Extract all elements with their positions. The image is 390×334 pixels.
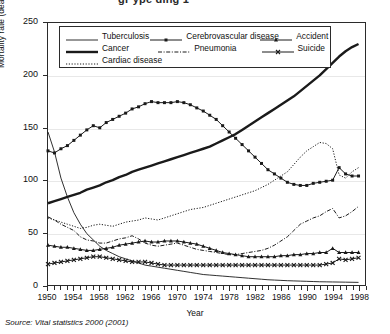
x-tick-label: 1998 [344, 292, 374, 302]
x-tick-minor [171, 286, 172, 290]
chart-legend: Tuberculosis Cerebrovascular disease Acc… [59, 26, 331, 68]
source-note: Source: Vital statistics 2000 (2001) [5, 318, 128, 327]
x-tick-major [255, 286, 256, 291]
series-marker [234, 137, 237, 140]
series-marker [312, 182, 315, 185]
series-marker [286, 181, 289, 184]
legend-swatch-marker-square [149, 31, 183, 41]
x-tick-minor [119, 286, 120, 290]
x-tick-minor [268, 286, 269, 290]
x-tick-minor [366, 286, 367, 290]
legend-swatch-marker-x [261, 43, 295, 53]
x-tick-minor [164, 286, 165, 290]
x-tick-minor [346, 286, 347, 290]
legend-swatch-thin-solid [65, 31, 99, 41]
series-marker [325, 180, 328, 183]
series-marker [143, 239, 147, 243]
x-tick-minor [190, 286, 191, 290]
x-tick-minor [301, 286, 302, 290]
y-axis-label: Mortality rate (death per 100,000) [0, 0, 6, 95]
series-marker [169, 101, 172, 104]
legend-item-cancer: Cancer [65, 43, 157, 53]
series-marker [195, 106, 198, 109]
series-marker [247, 149, 250, 152]
y-tick-label: 250 [12, 16, 38, 26]
x-tick-major [125, 286, 126, 291]
x-tick-minor [67, 286, 68, 290]
series-cardiac-disease [48, 142, 359, 228]
series-marker [318, 181, 321, 184]
x-tick-major [203, 286, 204, 291]
x-tick-minor [93, 286, 94, 290]
x-tick-major [151, 286, 152, 291]
legend-row: Tuberculosis Cerebrovascular disease Acc… [65, 30, 325, 42]
x-tick-minor [262, 286, 263, 290]
series-marker [338, 166, 341, 169]
legend-row: Cancer Pneumonia Suicide [65, 42, 325, 54]
series-marker [137, 105, 140, 108]
series-tuberculosis [48, 132, 359, 282]
series-marker [85, 128, 88, 131]
x-tick-minor [86, 286, 87, 290]
x-tick-major [99, 286, 100, 291]
x-tick-minor [275, 286, 276, 290]
series-marker [79, 134, 82, 137]
legend-item-accident: Accident [259, 31, 328, 41]
series-line [48, 142, 359, 228]
x-tick-major [229, 286, 230, 291]
x-tick-minor [210, 286, 211, 290]
series-marker [111, 118, 114, 121]
x-tick-minor [223, 286, 224, 290]
series-marker [357, 175, 360, 178]
series-line [48, 132, 359, 282]
x-axis-label: Year [0, 308, 390, 318]
x-tick-minor [60, 286, 61, 290]
x-tick-major [177, 286, 178, 291]
x-tick-minor [353, 286, 354, 290]
legend-label: Cancer [102, 43, 129, 53]
x-tick-minor [197, 286, 198, 290]
series-marker [215, 118, 218, 121]
series-marker [47, 149, 50, 152]
series-marker [144, 102, 147, 105]
series-marker [279, 177, 282, 180]
series-marker [59, 147, 62, 150]
x-tick-minor [236, 286, 237, 290]
x-tick-minor [132, 286, 133, 290]
x-tick-minor [216, 286, 217, 290]
x-tick-minor [184, 286, 185, 290]
figure-title-clipped: gr ype ding 1 [0, 0, 390, 9]
y-tick-label: 100 [12, 174, 38, 184]
series-cerebrovascular-disease [47, 100, 361, 187]
series-marker [292, 183, 295, 186]
series-marker [228, 131, 231, 134]
series-marker [260, 162, 263, 165]
x-tick-major [307, 286, 308, 291]
series-marker [344, 172, 347, 175]
series-marker [254, 156, 257, 159]
legend-label: Pneumonia [194, 43, 236, 53]
series-marker [351, 175, 354, 178]
mortality-rate-figure: gr ype ding 1 050100150200250 Mortality … [0, 0, 390, 334]
series-marker [331, 179, 334, 182]
legend-label: Cardiac disease [102, 55, 162, 65]
x-tick-minor [249, 286, 250, 290]
series-marker [176, 100, 179, 103]
y-tick-label: 200 [12, 69, 38, 79]
x-tick-minor [145, 286, 146, 290]
x-tick-minor [288, 286, 289, 290]
y-tick-label: 0 [12, 280, 38, 290]
series-marker [331, 246, 335, 250]
figure-title-text: gr ype ding 1 [118, 0, 189, 5]
series-marker [266, 168, 269, 171]
x-tick-minor [158, 286, 159, 290]
x-tick-minor [54, 286, 55, 290]
legend-item-tuberculosis: Tuberculosis [65, 31, 149, 41]
x-tick-minor [138, 286, 139, 290]
series-marker [189, 103, 192, 106]
series-accident [46, 239, 361, 258]
x-tick-minor [314, 286, 315, 290]
legend-item-cardiac-disease: Cardiac disease [65, 55, 163, 65]
x-tick-minor [242, 286, 243, 290]
series-line [48, 102, 359, 186]
